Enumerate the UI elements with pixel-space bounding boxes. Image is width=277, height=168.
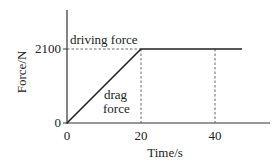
x-axis-title: Time/s <box>147 145 183 160</box>
x-tick-label-20: 20 <box>135 128 148 143</box>
driving-force-label: driving force <box>70 32 138 47</box>
drag-force-line <box>67 49 242 123</box>
drag-force-label-line2: force <box>103 101 130 116</box>
x-tick-label-40: 40 <box>209 128 222 143</box>
x-tick-label-0: 0 <box>64 128 71 143</box>
drag-force-label-line1: drag <box>104 87 128 102</box>
y-tick-label-0: 0 <box>55 115 62 130</box>
y-tick-label-2100: 2100 <box>35 41 61 56</box>
y-axis-title: Force/N <box>14 50 29 93</box>
force-time-chart: 0 20 40 0 2100 Time/s Force/N driving fo… <box>0 0 277 168</box>
